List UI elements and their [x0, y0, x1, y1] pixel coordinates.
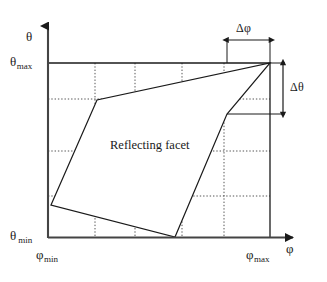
reflecting-facet-label: Reflecting facet [110, 139, 189, 152]
theta-max-tick-label: θmax [10, 55, 32, 68]
theta-max-subscript: max [16, 61, 32, 71]
phi-min-subscript: min [44, 254, 59, 264]
phi-min-base: φ [36, 247, 44, 262]
theta-min-subscript: min [16, 235, 32, 245]
delta-theta-label: Δθ [290, 81, 304, 93]
phi-max-base: φ [246, 247, 254, 262]
phi-axis-label: φ [286, 242, 294, 255]
theta-min-tick-label: θmin [10, 229, 32, 242]
reflecting-facet-figure: θ φ θmax θmin φmin φmax Δφ Δθ Reflecting… [0, 0, 327, 282]
phi-max-subscript: max [254, 254, 270, 264]
theta-axis-label: θ [26, 30, 32, 43]
phi-max-tick-label: φmax [246, 248, 270, 261]
delta-phi-label: Δφ [236, 22, 251, 34]
phi-min-tick-label: φmin [36, 248, 58, 261]
